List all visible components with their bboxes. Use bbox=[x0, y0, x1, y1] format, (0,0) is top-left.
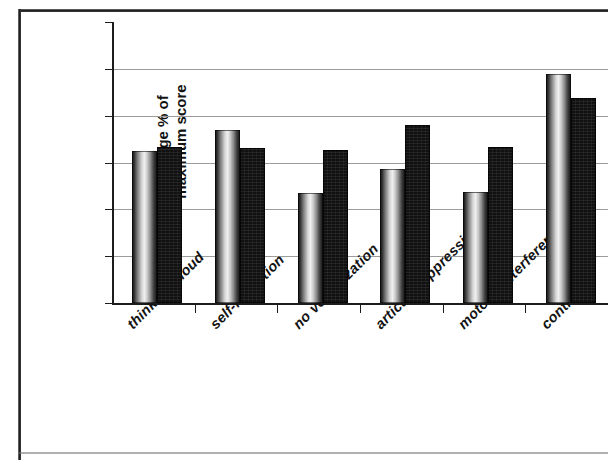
x-axis-tick bbox=[443, 305, 444, 313]
figure-border-bottom bbox=[18, 452, 608, 454]
bar bbox=[215, 130, 240, 303]
y-axis-line bbox=[112, 22, 114, 305]
x-axis-tick bbox=[525, 305, 526, 313]
bar bbox=[298, 193, 323, 303]
gridline bbox=[114, 116, 608, 117]
bar bbox=[323, 150, 348, 303]
y-axis-tick bbox=[105, 22, 113, 23]
x-axis-tick bbox=[277, 305, 278, 313]
bar bbox=[463, 192, 488, 303]
y-axis-tick bbox=[105, 116, 113, 117]
y-axis-tick bbox=[105, 69, 113, 70]
bar bbox=[132, 151, 157, 303]
gridline bbox=[114, 163, 608, 164]
bar bbox=[488, 147, 513, 303]
y-axis-tick bbox=[105, 209, 113, 210]
y-axis-tick bbox=[105, 163, 113, 164]
gridline bbox=[114, 69, 608, 70]
x-axis-tick bbox=[360, 305, 361, 313]
y-axis-tick bbox=[105, 303, 113, 304]
bar bbox=[240, 148, 265, 303]
figure-border-top bbox=[18, 9, 608, 12]
bar bbox=[405, 125, 430, 303]
x-axis-tick bbox=[195, 305, 196, 313]
y-axis-title: average % of maximum score bbox=[24, 0, 82, 283]
figure-border-left bbox=[18, 9, 21, 460]
figure-container: average % of maximum score 0102030405060… bbox=[0, 0, 608, 460]
bar bbox=[380, 169, 405, 303]
bar bbox=[157, 147, 182, 303]
y-axis-tick bbox=[105, 256, 113, 257]
gridline bbox=[114, 209, 608, 210]
bar bbox=[571, 98, 596, 303]
bar bbox=[546, 74, 571, 303]
